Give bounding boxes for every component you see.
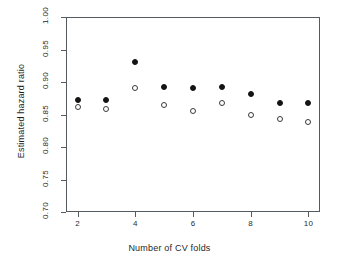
y-tick-label: 0.70 — [41, 198, 50, 224]
y-tick-mark — [61, 82, 66, 83]
y-tick-label: 1.00 — [41, 3, 50, 29]
x-tick-label: 10 — [304, 219, 314, 228]
x-tick-mark — [135, 212, 136, 217]
y-tick-label: 0.95 — [41, 35, 50, 61]
y-tick-label: 0.75 — [41, 165, 50, 191]
x-tick-mark — [193, 212, 194, 217]
y-tick-mark — [61, 212, 66, 213]
y-tick-label: 0.85 — [41, 100, 50, 126]
scatter-plot-figure: Number of CV folds Estimated hazard rati… — [0, 0, 339, 269]
y-tick-label: 0.80 — [41, 133, 50, 159]
x-tick-mark — [251, 212, 252, 217]
y-tick-mark — [61, 147, 66, 148]
x-tick-label: 2 — [75, 219, 80, 228]
x-tick-mark — [78, 212, 79, 217]
x-tick-label: 4 — [133, 219, 138, 228]
y-axis-title: Estimated hazard ratio — [16, 46, 26, 176]
y-tick-mark — [61, 115, 66, 116]
x-tick-mark — [308, 212, 309, 217]
y-tick-label: 0.90 — [41, 68, 50, 94]
y-tick-mark — [61, 50, 66, 51]
x-tick-label: 6 — [191, 219, 196, 228]
plot-area-frame — [66, 17, 320, 212]
y-tick-mark — [61, 180, 66, 181]
x-tick-label: 8 — [248, 219, 253, 228]
y-tick-mark — [61, 17, 66, 18]
x-axis-title: Number of CV folds — [0, 243, 339, 253]
